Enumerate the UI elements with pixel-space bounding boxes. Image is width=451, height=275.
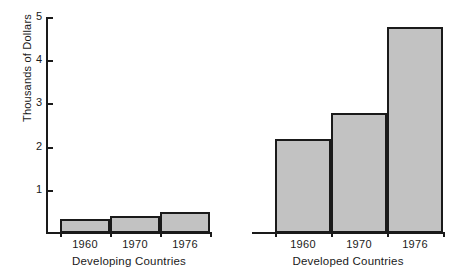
x-tick-mark	[60, 232, 62, 237]
x-tick-mark	[387, 232, 389, 237]
bar	[275, 139, 331, 233]
y-tick-label: 5	[24, 10, 42, 22]
y-tick-mark	[47, 17, 53, 19]
y-tick-mark	[47, 103, 53, 105]
bar	[60, 219, 110, 233]
x-tick-label: 1960	[280, 238, 326, 250]
y-tick-mark	[47, 190, 53, 192]
y-tick-label: 4	[24, 53, 42, 65]
y-tick-mark	[47, 60, 53, 62]
x-tick-label: 1960	[62, 238, 108, 250]
bar	[160, 212, 210, 233]
x-tick-label: 1976	[392, 238, 438, 250]
group-caption-developed: Developed Countries	[252, 255, 444, 267]
bar	[110, 216, 160, 233]
x-tick-mark	[160, 232, 162, 237]
x-tick-mark	[110, 232, 112, 237]
x-tick-mark	[275, 232, 277, 237]
group-caption-developing: Developing Countries	[46, 255, 212, 267]
y-tick-label: 1	[24, 183, 42, 195]
x-tick-label: 1970	[336, 238, 382, 250]
x-tick-label: 1976	[162, 238, 208, 250]
x-tick-mark	[331, 232, 333, 237]
x-tick-mark	[210, 232, 212, 237]
y-axis-line	[46, 17, 48, 234]
y-tick-mark	[47, 147, 53, 149]
bar	[331, 113, 387, 233]
y-tick-label: 3	[24, 96, 42, 108]
y-tick-label: 2	[24, 140, 42, 152]
bar-chart: Thousands of Dollars 54321 1960197019761…	[0, 0, 451, 275]
bar	[387, 27, 443, 233]
x-tick-mark	[443, 232, 445, 237]
x-tick-label: 1970	[112, 238, 158, 250]
